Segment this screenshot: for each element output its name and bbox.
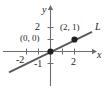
y-axis xyxy=(48,5,53,86)
point-2-1 xyxy=(71,36,77,42)
y-tick-label-2: 2 xyxy=(35,22,40,32)
coordinate-plane-svg xyxy=(0,0,106,89)
x-tick-label-minus-2: -2 xyxy=(16,55,24,65)
line-name-label: L xyxy=(95,22,101,32)
line-graph-figure: y x 2 -1 2 -2 (0, 0) (2, 1) L xyxy=(0,0,106,89)
y-tick-label-minus-1: -1 xyxy=(34,59,42,69)
x-axis-label: x xyxy=(97,50,101,60)
y-axis-label: y xyxy=(42,5,46,15)
point-origin xyxy=(47,48,53,54)
origin-point-label: (0, 0) xyxy=(20,34,40,43)
point-2-1-label: (2, 1) xyxy=(60,23,80,32)
x-tick-label-2: 2 xyxy=(71,57,76,67)
